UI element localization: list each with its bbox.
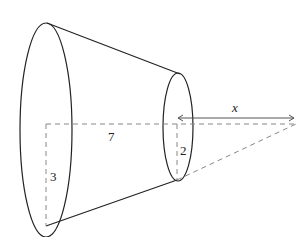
apex-extension-dashed: [177, 124, 296, 180]
small-radius-label: 2: [180, 143, 187, 158]
large-radius-label: 3: [50, 169, 57, 184]
small-base-ellipse: [163, 73, 193, 181]
frustum-diagram: 7 3 2 x: [0, 0, 308, 237]
bottom-slant-edge: [46, 180, 177, 226]
large-base-ellipse: [20, 23, 72, 237]
length-label: 7: [108, 129, 115, 144]
x-label: x: [231, 100, 238, 115]
